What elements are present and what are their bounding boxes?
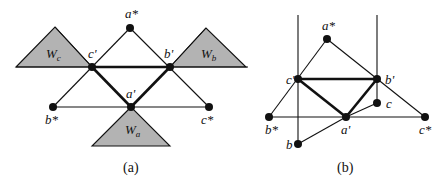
label-b-star: b* — [265, 122, 279, 137]
point-b-prime — [166, 63, 174, 71]
point-b-prime — [373, 75, 381, 83]
point-c — [373, 99, 381, 107]
point-a-prime — [127, 103, 135, 111]
label-b-star: b* — [45, 112, 59, 127]
label-a-star: a* — [322, 18, 336, 33]
label-b-prime: b' — [164, 46, 174, 61]
edge-c-prime-a-prime — [298, 79, 346, 117]
label-c: c — [386, 96, 392, 111]
edge-a-prime-b — [298, 117, 346, 144]
panel-b: a* c' b' a' b* c* c b (b) — [265, 15, 432, 176]
edge-b-prime-a-prime — [346, 79, 377, 117]
label-a-star: a* — [125, 6, 139, 21]
point-b-star — [265, 113, 273, 121]
point-a-prime — [342, 113, 350, 121]
label-a-prime: a' — [341, 122, 351, 137]
point-a-star — [126, 24, 134, 32]
point-a-star — [323, 35, 331, 43]
point-b — [294, 140, 302, 148]
label-b-prime: b' — [385, 72, 395, 87]
edge-b-prime-a-prime — [131, 67, 170, 107]
point-c-prime — [294, 75, 302, 83]
label-c-prime: c' — [88, 46, 97, 61]
label-c-prime: c' — [286, 72, 295, 87]
label-c-star: c* — [201, 112, 214, 127]
point-b-star — [49, 103, 57, 111]
caption-a: (a) — [123, 160, 139, 176]
point-c-star — [421, 113, 429, 121]
caption-b: (b) — [337, 160, 354, 176]
label-b: b — [286, 137, 293, 152]
label-c-star: c* — [419, 122, 432, 137]
figure: a* c' b' a' b* c* Wc Wb Wa (a) — [0, 0, 441, 187]
point-c-star — [205, 103, 213, 111]
panel-a: a* c' b' a' b* c* Wc Wb Wa (a) — [16, 6, 248, 176]
label-a-prime: a' — [126, 86, 136, 101]
point-c-prime — [88, 63, 96, 71]
